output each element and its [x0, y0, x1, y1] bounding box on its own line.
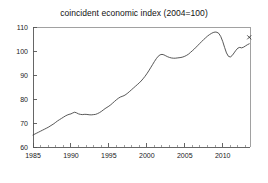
x-tick-label-1990: 1990: [63, 152, 79, 159]
x-tick-label-1985: 1985: [25, 152, 41, 159]
y-tick-label-60: 60: [20, 144, 28, 151]
y-axis-tick-labels: 60708090100110: [16, 24, 28, 151]
y-tick-label-100: 100: [16, 48, 28, 55]
y-axis-ticks: [33, 27, 37, 147]
y-tick-label-70: 70: [20, 120, 28, 127]
x-axis-ticks: [33, 143, 223, 147]
x-tick-label-1995: 1995: [101, 152, 117, 159]
chart-figure: coincident economic index (2004=100) 607…: [0, 0, 268, 183]
plot-frame: [33, 27, 250, 147]
data-series-line: [33, 32, 249, 135]
y-tick-label-110: 110: [17, 24, 28, 31]
x-axis-tick-labels: 198519901995200020052010: [25, 152, 230, 159]
series-end-marker: [247, 35, 251, 39]
line-chart-plot: 60708090100110 198519901995200020052010: [0, 0, 268, 183]
y-tick-label-80: 80: [20, 96, 28, 103]
x-tick-label-2010: 2010: [215, 152, 231, 159]
x-tick-label-2000: 2000: [139, 152, 155, 159]
y-tick-label-90: 90: [20, 72, 28, 79]
x-tick-label-2005: 2005: [177, 152, 193, 159]
